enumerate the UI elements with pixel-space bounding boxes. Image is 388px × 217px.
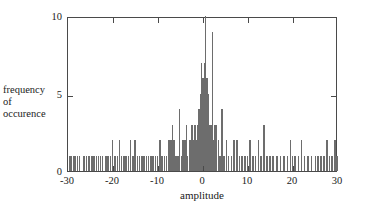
y-axis-title: frequency of occurence: [3, 84, 65, 120]
histogram-bar: [263, 125, 265, 172]
histogram-bar: [276, 156, 278, 172]
histogram-bar: [252, 156, 254, 172]
histogram-bar: [88, 156, 90, 172]
histogram-bar: [231, 156, 233, 172]
x-axis-tick: [248, 166, 249, 171]
y-axis-title-line-1: frequency: [3, 84, 65, 96]
y-axis-tick-right: [331, 96, 336, 97]
histogram-bar: [298, 156, 300, 172]
histogram-bar: [317, 156, 319, 172]
x-tick-label: -10: [137, 175, 177, 186]
x-axis-title: amplitude: [67, 189, 337, 201]
histogram-bar: [307, 156, 309, 172]
x-axis-tick: [203, 166, 204, 171]
histogram-bar: [266, 156, 268, 172]
histogram-bar: [244, 156, 246, 172]
x-axis-tick: [113, 166, 114, 171]
histogram-bar: [102, 156, 104, 172]
histogram-bar: [331, 156, 333, 172]
histogram-bar: [258, 140, 260, 171]
histogram-bar: [236, 140, 238, 171]
x-axis-tick-top: [248, 18, 249, 23]
histogram-bar: [249, 140, 251, 171]
histogram-bar: [329, 156, 331, 172]
x-axis-tick-top: [113, 18, 114, 23]
x-axis-tick-top: [158, 18, 159, 23]
histogram-bar: [228, 156, 230, 172]
y-axis-title-line-3: occurence: [3, 108, 65, 120]
y-axis-title-line-2: of: [3, 96, 65, 108]
x-axis-tick: [293, 166, 294, 171]
x-tick-label: -30: [47, 175, 87, 186]
histogram-bar: [311, 156, 313, 172]
x-axis-tick-top: [293, 18, 294, 23]
histogram-bar: [86, 156, 88, 172]
y-tick-label-10: 10: [36, 11, 62, 22]
histogram-bar: [280, 156, 282, 172]
histogram-bar: [255, 156, 257, 172]
x-tick-label: 10: [227, 175, 267, 186]
histogram-bar: [301, 140, 303, 171]
histogram-bar: [294, 156, 296, 172]
y-axis-tick: [68, 96, 73, 97]
x-axis-tick-top: [203, 18, 204, 23]
histogram-bar: [79, 156, 81, 172]
histogram-bar: [239, 156, 241, 172]
histogram-bar: [269, 156, 271, 172]
histogram-bar: [260, 156, 262, 172]
histogram-bar: [336, 156, 338, 172]
histogram-bar: [326, 140, 328, 171]
histogram-bar: [287, 156, 289, 172]
histogram-bar: [283, 156, 285, 172]
x-tick-label: 0: [182, 175, 222, 186]
histogram-bar: [323, 156, 325, 172]
histogram-bars: [68, 18, 336, 171]
x-tick-label: -20: [92, 175, 132, 186]
histogram-bar: [304, 156, 306, 172]
histogram-figure: 10 5 0 frequency of occurence -30-20-100…: [0, 0, 388, 217]
histogram-bar: [315, 156, 317, 172]
x-tick-label: 30: [317, 175, 357, 186]
plot-area: [67, 17, 337, 172]
histogram-bar: [320, 156, 322, 172]
histogram-bar: [233, 140, 235, 171]
histogram-bar: [241, 156, 243, 172]
x-axis-tick: [158, 166, 159, 171]
histogram-bar: [272, 156, 274, 172]
x-tick-label: 20: [272, 175, 312, 186]
